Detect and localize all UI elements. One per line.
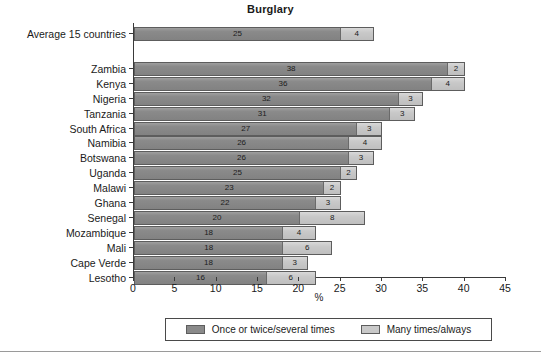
y-axis-tick xyxy=(129,187,133,188)
bar-segment-many-times: 2 xyxy=(323,182,339,194)
x-axis-tick xyxy=(216,277,217,281)
bar-segment-once-or-twice: 31 xyxy=(135,108,389,120)
bar-row: Nigeria323 xyxy=(133,92,505,106)
category-label: Nigeria xyxy=(93,92,126,106)
legend-label: Once or twice/several times xyxy=(212,324,335,335)
bar-segment-once-or-twice: 25 xyxy=(135,167,340,179)
category-label: Tanzania xyxy=(84,107,126,121)
y-axis-tick xyxy=(129,142,133,143)
x-axis-tick xyxy=(133,277,134,281)
bar-row: South Africa273 xyxy=(133,122,505,136)
bar-segment-value: 3 xyxy=(326,199,330,207)
bar-row: Kenya364 xyxy=(133,77,505,91)
bar-segment-value: 25 xyxy=(233,169,242,177)
y-axis-tick xyxy=(129,68,133,69)
stacked-bar: 208 xyxy=(134,211,365,225)
bar-row: Ghana223 xyxy=(133,196,505,210)
legend-entry: Many times/always xyxy=(361,324,471,335)
bar-segment-once-or-twice: 23 xyxy=(135,182,323,194)
legend-label: Many times/always xyxy=(387,324,471,335)
bar-row: Average 15 countries254 xyxy=(133,27,505,41)
bar-row: Uganda252 xyxy=(133,166,505,180)
stacked-bar: 252 xyxy=(134,166,357,180)
bar-segment-value: 26 xyxy=(237,139,246,147)
bar-segment-many-times: 4 xyxy=(348,137,381,149)
bar-segment-once-or-twice: 38 xyxy=(135,63,447,75)
bar-segment-many-times: 3 xyxy=(282,257,307,269)
bar-segment-many-times: 3 xyxy=(389,108,414,120)
x-axis-tick xyxy=(340,277,341,281)
burglary-stacked-bar-chart: Burglary Average 15 countries254Zambia38… xyxy=(0,0,541,358)
bar-row: Botswana263 xyxy=(133,151,505,165)
y-axis-tick xyxy=(129,202,133,203)
y-axis-tick xyxy=(129,262,133,263)
bar-segment-value: 20 xyxy=(212,214,221,222)
bar-segment-many-times: 8 xyxy=(299,212,365,224)
category-label: Ghana xyxy=(94,196,126,210)
bar-segment-value: 3 xyxy=(408,95,412,103)
bar-segment-many-times: 4 xyxy=(340,28,373,40)
bar-segment-many-times: 3 xyxy=(315,197,340,209)
category-label: Mali xyxy=(107,241,126,255)
y-axis-tick xyxy=(129,157,133,158)
category-label: Average 15 countries xyxy=(27,27,126,41)
legend-entry: Once or twice/several times xyxy=(186,324,335,335)
stacked-bar: 232 xyxy=(134,181,341,195)
bar-segment-value: 3 xyxy=(367,125,371,133)
category-label: Cape Verde xyxy=(71,256,126,270)
x-axis-tick xyxy=(505,277,506,281)
stacked-bar: 184 xyxy=(134,226,316,240)
y-axis-tick xyxy=(129,33,133,34)
bar-segment-value: 6 xyxy=(305,244,309,252)
bar-segment-many-times: 3 xyxy=(356,123,381,135)
stacked-bar: 264 xyxy=(134,136,382,150)
y-axis-tick xyxy=(129,113,133,114)
y-axis-tick xyxy=(129,172,133,173)
bar-row: Senegal208 xyxy=(133,211,505,225)
category-label: Malawi xyxy=(93,181,126,195)
bar-row: Mozambique184 xyxy=(133,226,505,240)
bar-segment-once-or-twice: 36 xyxy=(135,78,431,90)
bar-segment-once-or-twice: 25 xyxy=(135,28,340,40)
bar-segment-value: 36 xyxy=(278,80,287,88)
bar-row: Tanzania313 xyxy=(133,107,505,121)
category-label: Botswana xyxy=(80,151,126,165)
bar-segment-many-times: 4 xyxy=(282,227,315,239)
bar-segment-many-times: 4 xyxy=(431,78,464,90)
bar-segment-value: 23 xyxy=(225,184,234,192)
stacked-bar: 183 xyxy=(134,256,308,270)
bar-segment-value: 4 xyxy=(363,139,367,147)
category-label: Zambia xyxy=(91,62,126,76)
bar-segment-once-or-twice: 22 xyxy=(135,197,315,209)
bar-segment-once-or-twice: 18 xyxy=(135,242,282,254)
bar-segment-many-times: 2 xyxy=(340,167,356,179)
bar-segment-once-or-twice: 27 xyxy=(135,123,356,135)
bar-segment-value: 16 xyxy=(196,274,205,282)
bar-segment-once-or-twice: 18 xyxy=(135,227,282,239)
bar-segment-value: 27 xyxy=(241,125,250,133)
y-axis-tick xyxy=(129,98,133,99)
category-label: Senegal xyxy=(87,211,126,225)
bar-segment-once-or-twice: 20 xyxy=(135,212,299,224)
stacked-bar: 313 xyxy=(134,107,415,121)
y-axis-tick xyxy=(129,128,133,129)
bar-row: Zambia382 xyxy=(133,62,505,76)
bar-segment-value: 2 xyxy=(330,184,334,192)
bar-segment-once-or-twice: 18 xyxy=(135,257,282,269)
stacked-bar: 382 xyxy=(134,62,465,76)
y-axis-tick xyxy=(129,217,133,218)
x-axis-tick xyxy=(174,277,175,281)
bar-segment-value: 4 xyxy=(445,80,449,88)
bar-segment-value: 4 xyxy=(355,30,359,38)
bar-segment-value: 38 xyxy=(287,65,296,73)
bar-segment-once-or-twice: 26 xyxy=(135,152,348,164)
bar-segment-value: 31 xyxy=(258,110,267,118)
bar-segment-value: 18 xyxy=(204,244,213,252)
bar-segment-value: 6 xyxy=(289,274,293,282)
x-axis-tick xyxy=(422,277,423,281)
stacked-bar: 273 xyxy=(134,122,382,136)
bar-segment-value: 26 xyxy=(237,154,246,162)
stacked-bar: 263 xyxy=(134,151,374,165)
bar-row: Mali186 xyxy=(133,241,505,255)
stacked-bar: 254 xyxy=(134,27,374,41)
